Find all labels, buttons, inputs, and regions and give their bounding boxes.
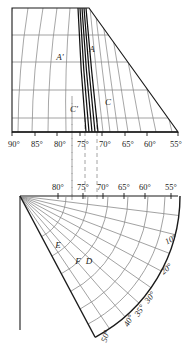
upper-axis-label-70deg: 70° — [99, 139, 111, 149]
upper-point-label-Cprime: C' — [70, 104, 79, 114]
lower-limb-ray — [20, 196, 95, 337]
upper-curve-4 — [48, 8, 57, 132]
upper-axis-label-65deg: 65° — [122, 139, 134, 149]
lower-panel: 80°75°70°65°60°55° 10°20°30°35°40°50° EF… — [20, 182, 180, 343]
upper-horizontal-gridlines — [12, 35, 190, 118]
lower-radial-labels: 10°20°30°35°40°50° — [99, 232, 179, 343]
lower-top-label-70deg: 70° — [97, 182, 109, 192]
upper-point-label-Aprime: A' — [55, 52, 64, 62]
upper-axis-label-55deg: 55° — [170, 139, 182, 149]
upper-axis-label-80deg: 80° — [54, 139, 66, 149]
upper-curve-15 — [117, 8, 141, 132]
lower-point-label-F: F — [74, 256, 81, 266]
lower-top-label-55deg: 55° — [165, 182, 177, 192]
upper-axis-label-75deg: 75° — [77, 139, 89, 149]
lower-arc-5 — [80, 196, 148, 309]
upper-curve-16 — [128, 8, 156, 132]
upper-curve-family — [5, 8, 172, 132]
upper-point-label-C: C — [105, 97, 112, 107]
lower-ray-3 — [20, 196, 169, 253]
lower-radial-label-30deg: 30° — [141, 289, 157, 306]
lower-point-label-E: E — [54, 240, 61, 250]
upper-panel: 90°85°80°75°70°65°60°55° A'AC'C — [5, 8, 190, 149]
lower-radial-rays — [20, 196, 179, 329]
lower-ray-2 — [20, 196, 175, 235]
diagram-canvas: 90°85°80°75°70°65°60°55° A'AC'C 80°75°70… — [0, 0, 192, 344]
upper-point-label-A: A — [88, 44, 95, 54]
lower-radial-label-10deg: 10° — [163, 232, 179, 247]
upper-curve-3 — [32, 8, 43, 132]
upper-curve-14 — [108, 8, 128, 132]
upper-curve-2 — [18, 8, 28, 132]
upper-axis-label-90deg: 90° — [8, 139, 20, 149]
lower-top-label-65deg: 65° — [118, 182, 130, 192]
lower-top-label-80deg: 80° — [52, 182, 64, 192]
upper-panel-outline — [12, 8, 178, 132]
upper-curve-1 — [5, 8, 12, 132]
lower-top-labels: 80°75°70°65°60°55° — [52, 182, 177, 192]
upper-curve-9 — [84, 8, 95, 132]
lower-top-label-60deg: 60° — [139, 182, 151, 192]
upper-axis-labels: 90°85°80°75°70°65°60°55° — [8, 139, 182, 149]
lower-radial-label-50deg: 50° — [99, 328, 112, 343]
figure-root: 90°85°80°75°70°65°60°55° A'AC'C 80°75°70… — [0, 0, 192, 344]
lower-radial-label-35deg: 35° — [132, 302, 148, 319]
lower-top-label-75deg: 75° — [77, 182, 89, 192]
upper-axis-label-60deg: 60° — [144, 139, 156, 149]
lower-point-label-D: D — [85, 256, 93, 266]
upper-axis-label-85deg: 85° — [31, 139, 43, 149]
upper-curve-13 — [101, 8, 118, 132]
lower-radial-label-20deg: 20° — [158, 261, 174, 277]
lower-ray-8 — [20, 196, 109, 329]
upper-curve-17 — [140, 8, 172, 132]
lower-concentric-arcs — [42, 196, 165, 324]
